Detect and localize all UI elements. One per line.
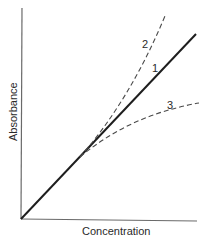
x-axis-label: Concentration xyxy=(82,225,151,237)
curve-3-label: 3 xyxy=(167,99,173,111)
curve-1-label: 1 xyxy=(152,62,158,74)
curve-2-label: 2 xyxy=(142,38,148,50)
curve-2-positive-deviation xyxy=(80,16,165,157)
curve-1-linear xyxy=(21,34,196,219)
y-axis-label: Absorbance xyxy=(7,82,19,141)
curve-3-negative-deviation xyxy=(80,103,199,157)
x-axis xyxy=(21,219,197,221)
absorbance-vs-concentration-chart: 2 1 3 Concentration Absorbance xyxy=(0,0,208,243)
y-axis xyxy=(21,8,22,219)
